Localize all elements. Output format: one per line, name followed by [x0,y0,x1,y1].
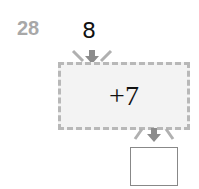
answer-box[interactable] [130,147,178,186]
operation-label: +7 [58,62,190,130]
input-value: 8 [82,18,96,43]
problem-number: 28 [17,17,39,40]
output-arrow-icon [132,126,176,144]
